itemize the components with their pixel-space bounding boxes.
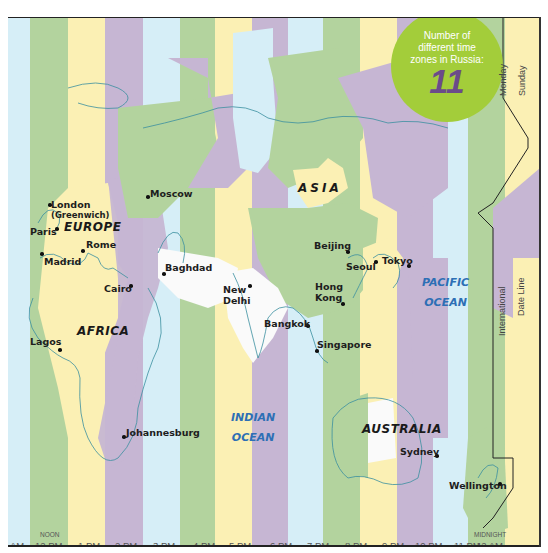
city-hong-kong-line1: Hong <box>315 281 343 292</box>
city-seoul: Seoul <box>346 261 376 272</box>
city-london: London (Greenwich) <box>51 199 109 221</box>
world-time-zone-map: Number of different time zones in Russia… <box>8 18 540 545</box>
city-london-sub: (Greenwich) <box>51 210 109 221</box>
city-new-delhi: New Delhi <box>223 284 251 306</box>
callout-number: 11 <box>391 62 503 101</box>
city-cairo: Cairo <box>104 283 132 294</box>
region-africa: AFRICA <box>77 324 129 338</box>
city-marker-rome <box>81 249 85 253</box>
ocean-indian-line2: OCEAN <box>231 428 275 448</box>
city-sydney: Sydney <box>400 446 439 457</box>
region-europe: EUROPE <box>64 220 121 234</box>
ocean-pacific-line1: PACIFIC <box>422 273 469 293</box>
city-paris: Paris <box>30 226 57 237</box>
city-bangkok: Bangkok <box>264 318 310 329</box>
city-marker-moscow <box>146 195 150 199</box>
region-asia: ASIA <box>298 181 342 195</box>
city-lagos: Lagos <box>30 336 61 347</box>
callout-line-1: Number of <box>391 30 503 42</box>
city-tokyo: Tokyo <box>382 255 413 266</box>
city-london-name: London <box>51 199 109 210</box>
city-new-delhi-line1: New <box>223 284 251 295</box>
city-hong-kong-line2: Kong <box>315 292 343 303</box>
city-hong-kong: Hong Kong <box>315 281 343 303</box>
city-baghdad: Baghdad <box>165 262 212 273</box>
date-line-label-1: International <box>497 286 507 336</box>
city-new-delhi-line2: Delhi <box>223 295 251 306</box>
city-marker-madrid <box>40 252 44 256</box>
city-singapore: Singapore <box>317 339 372 350</box>
date-line-east-day: Sunday <box>517 65 527 96</box>
ocean-pacific: PACIFIC OCEAN <box>422 273 469 313</box>
ocean-indian: INDIAN OCEAN <box>231 408 275 448</box>
city-rome: Rome <box>86 239 116 250</box>
city-wellington: Wellington <box>449 480 507 491</box>
city-moscow: Moscow <box>150 188 193 199</box>
city-beijing: Beijing <box>314 240 351 251</box>
date-line-label-2: Date Line <box>516 277 526 316</box>
city-johannesburg: Johannesburg <box>126 427 200 438</box>
ocean-pacific-line2: OCEAN <box>422 293 469 313</box>
city-marker-johannesburg <box>122 435 126 439</box>
callout-line-2: different time <box>391 42 503 54</box>
city-madrid: Madrid <box>44 256 81 267</box>
region-australia: AUSTRALIA <box>362 422 442 436</box>
midnight-label: MIDNIGHT <box>474 531 506 538</box>
noon-label: NOON <box>40 531 60 538</box>
map-right-border <box>539 17 541 547</box>
date-line-west-day: Monday <box>498 64 508 96</box>
map-bottom-border <box>8 545 540 547</box>
ocean-indian-line1: INDIAN <box>231 408 275 428</box>
city-marker-lagos <box>58 348 62 352</box>
